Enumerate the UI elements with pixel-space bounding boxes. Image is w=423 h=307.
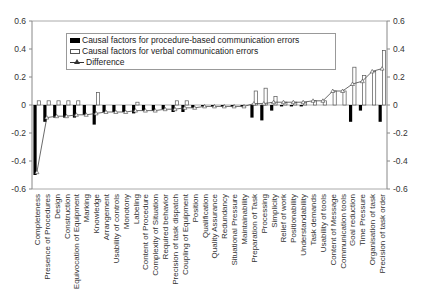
y-tick-label-right: 0.2	[393, 72, 405, 82]
verbal-bar	[136, 102, 139, 105]
category-label: Time Pressure	[358, 193, 367, 245]
line-triangle-swatch-icon	[70, 59, 84, 66]
procedure-bar	[280, 105, 283, 106]
category-label: Precision of task order	[378, 194, 387, 274]
legend-label: Causal factors for verbal communication …	[82, 46, 258, 57]
category-label: Precision of task dispatch	[171, 194, 180, 285]
category-label: Quality Assurance	[210, 193, 219, 258]
category-label: Required behavior	[161, 194, 170, 260]
category-label: Redundancy	[220, 194, 229, 239]
category-label: Position	[191, 194, 200, 222]
procedure-bar	[290, 105, 293, 106]
y-tick-label-left: 0.4	[14, 44, 26, 54]
verbal-bar	[96, 92, 99, 105]
legend-label: Difference	[86, 57, 125, 68]
category-label: Usability of controls	[112, 194, 121, 263]
legend: Causal factors for procedure-based commu…	[66, 33, 336, 70]
category-label: Coupling of Equipment	[181, 193, 190, 275]
x-axis-labels: CompletenessPresence of ProceduresDesign…	[33, 193, 387, 289]
y-tick-label-left: -0.6	[11, 184, 26, 194]
legend-label: Causal factors for procedure-based commu…	[82, 35, 299, 46]
legend-item-verbal: Causal factors for verbal communication …	[70, 46, 332, 57]
procedure-bar	[359, 105, 362, 111]
y-tick-label-right: -0.2	[393, 128, 408, 138]
procedure-bar	[83, 105, 86, 115]
category-label: Positionability	[289, 194, 298, 243]
category-label: Knowledge	[92, 193, 101, 233]
verbal-bar	[67, 101, 70, 105]
procedure-bar	[250, 105, 253, 118]
verbal-bar	[47, 101, 50, 105]
category-label: Processing	[260, 194, 269, 234]
white-bar-swatch-icon	[70, 49, 80, 54]
category-label: Maintainability	[240, 194, 249, 245]
legend-item-difference: Difference	[70, 57, 332, 68]
category-label: Task demands	[309, 194, 318, 246]
verbal-bar	[77, 101, 80, 105]
verbal-bar	[57, 101, 60, 105]
y-tick-label-right: 0.6	[393, 16, 405, 26]
category-label: Labeling	[132, 194, 141, 224]
verbal-bar	[353, 67, 356, 105]
category-label: Design	[53, 194, 62, 219]
category-label: Relief of work	[279, 193, 288, 242]
verbal-bar	[343, 91, 346, 105]
category-label: Equivocation of Equipment	[72, 193, 81, 289]
category-label: Content of Procedure	[141, 193, 150, 270]
verbal-bar	[382, 50, 385, 105]
procedure-bar	[379, 105, 382, 122]
verbal-bar	[373, 71, 376, 105]
verbal-bar	[175, 101, 178, 105]
verbal-bar	[333, 91, 336, 105]
category-label: Usability of tools	[319, 194, 328, 252]
category-label: Qualification	[201, 194, 210, 238]
category-label: Understandability	[299, 194, 308, 256]
category-label: Simplicity	[270, 194, 279, 228]
y-tick-label-left: 0.6	[14, 16, 26, 26]
legend-item-procedure: Causal factors for procedure-based commu…	[70, 35, 332, 46]
category-label: Presence of Procedures	[43, 194, 52, 280]
category-label: Completeness	[33, 194, 42, 245]
verbal-bar	[185, 101, 188, 105]
category-label: Monotony	[122, 194, 131, 229]
category-label: Organisation of task	[368, 193, 377, 265]
difference-line	[35, 67, 384, 174]
y-tick-label-left: -0.2	[11, 128, 26, 138]
y-tick-label-left: 0.2	[14, 72, 26, 82]
y-tick-label-left: -0.4	[11, 156, 26, 166]
category-label: Preparation of Task	[250, 193, 259, 263]
y-tick-label-left: 0	[21, 100, 26, 110]
verbal-bar	[37, 101, 40, 105]
y-tick-label-right: 0.4	[393, 44, 405, 54]
procedure-bar	[260, 105, 263, 120]
y-tick-label-right: 0	[393, 100, 398, 110]
category-label: Situational Pressure	[230, 193, 239, 265]
category-label: Content of Message	[329, 193, 338, 265]
procedure-bar	[349, 105, 352, 122]
category-label: Complexity of Situation	[151, 194, 160, 276]
y-tick-label-right: -0.4	[393, 156, 408, 166]
category-label: Arrangement	[102, 193, 111, 240]
procedure-bar	[33, 105, 36, 175]
procedure-bar	[270, 105, 273, 111]
black-bar-swatch-icon	[70, 38, 80, 43]
procedure-bar	[300, 105, 303, 106]
y-tick-label-right: -0.6	[393, 184, 408, 194]
category-label: Marking	[82, 194, 91, 222]
category-label: Communication tools	[339, 194, 348, 269]
category-label: Goal reduction	[348, 194, 357, 246]
category-label: Construction	[63, 194, 72, 239]
